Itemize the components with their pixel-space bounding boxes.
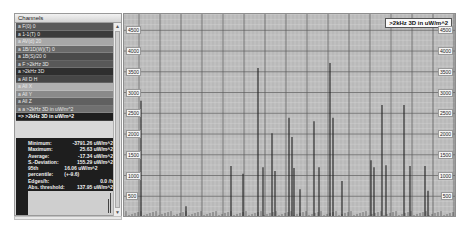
stat-label: 95th percentile: (28, 165, 64, 178)
y-axis-tick-left: 1500 (126, 151, 141, 159)
y-axis-tick-right: 3500 (438, 68, 453, 76)
scroll-up-arrow-icon[interactable]: ▲ (114, 23, 121, 30)
y-axis-tick-left: 4000 (126, 47, 141, 55)
y-axis-tick-left: 500 (126, 192, 138, 200)
channel-list-item[interactable]: a F >2kHz 3D (16, 61, 114, 69)
y-axis-tick-left: 2500 (126, 109, 141, 117)
channel-list: a F(0) 0a 1-1(T) 0a AV(d) 20a 1B/1D(W)(T… (16, 23, 114, 121)
stat-row: 95th percentile:16.06 uW/m^2 (+-9.6) (28, 165, 113, 178)
stat-label: Abs. threshold: (28, 184, 65, 190)
channel-list-item[interactable]: a All Y (16, 91, 114, 99)
channel-list-item[interactable]: a All X (16, 83, 114, 91)
channel-list-item[interactable]: a a >2kHz 3D in uW/m^2 (16, 106, 114, 114)
y-axis-tick-right: 2500 (438, 109, 453, 117)
y-axis-tick-right: 1000 (438, 172, 453, 180)
scrollbar-thumb[interactable] (115, 31, 120, 208)
chart-canvas (124, 14, 456, 217)
channel-list-scrollbar[interactable]: ▲ ▼ (113, 23, 121, 216)
scroll-down-arrow-icon[interactable]: ▼ (114, 209, 121, 216)
channel-list-item[interactable]: a All D H (16, 76, 114, 84)
stat-value: 16.06 uW/m^2 (+-9.6) (64, 165, 113, 178)
channels-panel-title: Channels (15, 14, 121, 23)
channel-list-item[interactable]: a 1B/1D(W)(T) 0 (16, 46, 114, 54)
chart-plot-area[interactable]: >2kHz 3D in uW/m^2 500500100010001500150… (123, 13, 456, 217)
stat-value: 137.95 uW/m^2 (77, 184, 113, 190)
y-axis-tick-left: 4500 (126, 26, 141, 34)
channel-list-item[interactable]: => >2kHz 3D in uW/m^2 (16, 113, 114, 121)
y-axis-tick-right: 2000 (438, 130, 453, 138)
y-axis-tick-right: 4500 (438, 26, 453, 34)
y-axis-tick-right: 1500 (438, 151, 453, 159)
stat-row: Abs. threshold:137.95 uW/m^2 (28, 184, 113, 190)
y-axis-tick-right: 3000 (438, 89, 453, 97)
channel-list-item[interactable]: a 1-1(T) 0 (16, 31, 114, 39)
y-axis-tick-right: 500 (441, 192, 453, 200)
channel-list-item[interactable]: a F(0) 0 (16, 23, 114, 31)
channel-panel-horizontal-scrollbar[interactable] (14, 216, 122, 220)
y-axis-tick-left: 1000 (126, 172, 141, 180)
preview-bar (108, 199, 109, 213)
y-axis-tick-left: 3500 (126, 68, 141, 76)
channels-panel: Channels a F(0) 0a 1-1(T) 0a AV(d) 20a 1… (14, 13, 122, 216)
channel-list-item[interactable]: a All Z (16, 98, 114, 106)
y-axis-tick-left: 2000 (126, 130, 141, 138)
y-axis-tick-left: 3000 (126, 89, 141, 97)
preview-bar (110, 193, 111, 213)
y-axis-tick-right: 4000 (438, 47, 453, 55)
statistics-box: Minimum:-3791.26 uW/m^2Maximum:25.63 uW/… (16, 138, 114, 191)
channel-preview-area (16, 191, 114, 215)
channel-list-item[interactable]: a 1B(S)/20 0 (16, 53, 114, 61)
channel-list-item[interactable]: a AV(d) 20 (16, 38, 114, 46)
channel-list-item[interactable]: a >2kHz 3D (16, 68, 114, 76)
